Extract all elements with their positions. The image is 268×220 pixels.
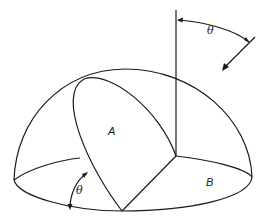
base-ellipse-back-right <box>176 156 252 177</box>
incident-ray <box>224 37 255 68</box>
angle-label-top: θ <box>207 24 214 37</box>
plane-a-label: A <box>108 125 115 137</box>
plane-b-label: B <box>206 176 213 188</box>
arrowhead-top-left <box>177 18 183 23</box>
angle-label-bottom: θ <box>76 184 83 197</box>
arrowhead-bottom-upper <box>82 172 88 178</box>
hemisphere-diagram <box>0 0 268 220</box>
base-ellipse-back <box>14 158 80 180</box>
plane-a-outline <box>73 78 176 211</box>
hemisphere-dome <box>14 69 252 180</box>
normal-line <box>122 156 176 211</box>
base-ellipse-front <box>14 177 252 211</box>
